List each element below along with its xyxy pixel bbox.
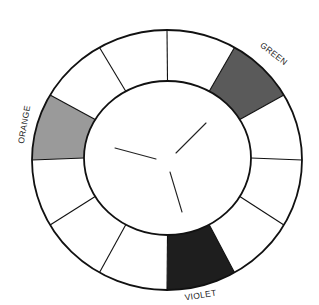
label-green: GREEN: [258, 40, 289, 67]
segment-divider: [167, 30, 168, 81]
label-orange: ORANGE: [16, 105, 33, 145]
color-wheel-diagram: GREEN ORANGE VIOLET: [0, 0, 319, 305]
segment-divider: [167, 235, 168, 290]
label-violet: VIOLET: [184, 288, 217, 303]
